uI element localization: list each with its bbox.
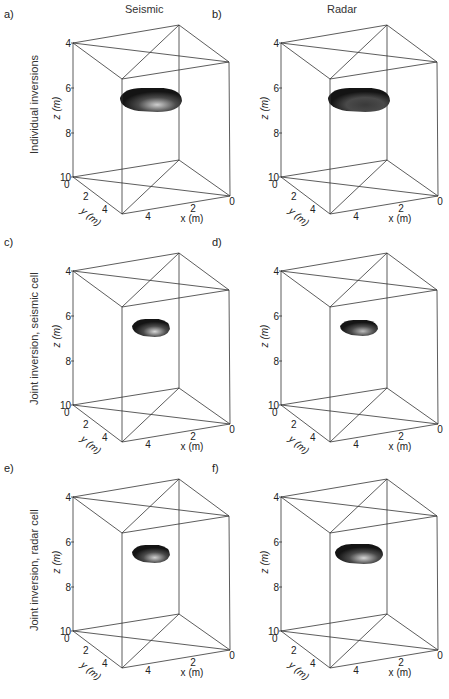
panel-c: c)46810z (m)024y (m)420x (m) [0, 228, 240, 463]
box-edge [330, 290, 437, 307]
box-edge [330, 516, 437, 533]
tick-label: 0 [272, 407, 278, 418]
panel-label: f) [212, 462, 219, 474]
tick-label: 0 [272, 633, 278, 644]
box-edge [73, 271, 229, 290]
tick-label: 4 [310, 432, 316, 443]
x-axis-label: x (m) [389, 667, 412, 678]
box-edge [73, 177, 122, 214]
tick-label: 4 [65, 492, 71, 503]
tick-label: 2 [291, 419, 297, 430]
tick-label: 4 [310, 204, 316, 215]
panel-label: a) [4, 8, 14, 20]
tick-label: 0 [437, 424, 443, 435]
tick-label: 0 [437, 650, 443, 661]
x-axis-label: x (m) [389, 441, 412, 452]
z-axis-label: z (m) [51, 97, 62, 121]
tick-label: 4 [310, 658, 316, 669]
panel-label: e) [4, 462, 14, 474]
tick-label: 8 [273, 582, 279, 593]
tick-label: 0 [64, 407, 70, 418]
tick-label: 2 [291, 645, 297, 656]
tick-label: 6 [65, 83, 71, 94]
tick-label: 8 [273, 356, 279, 367]
x-axis-label: x (m) [181, 441, 204, 452]
z-axis-label: z (m) [259, 97, 270, 121]
z-axis-label: z (m) [51, 325, 62, 349]
tick-label: 4 [102, 658, 108, 669]
tick-label: 8 [65, 128, 71, 139]
tick-label: 8 [65, 582, 71, 593]
tick-label: 4 [145, 439, 151, 450]
box-edge [281, 271, 437, 290]
tick-label: 0 [437, 196, 443, 207]
x-axis-label: x (m) [181, 667, 204, 678]
box-edge [281, 405, 330, 442]
isosurface-anomaly [340, 320, 378, 336]
tick-label: 4 [273, 38, 279, 49]
box-edge [73, 160, 179, 177]
box-edge [281, 497, 437, 516]
panel-f: f)46810z (m)024y (m)420x (m) [208, 454, 448, 689]
tick-label: 4 [65, 266, 71, 277]
panel-label: b) [212, 8, 222, 20]
tick-label: 4 [102, 204, 108, 215]
y-axis-label: y (m) [286, 204, 311, 228]
tick-label: 0 [64, 633, 70, 644]
x-axis-label: x (m) [181, 213, 204, 224]
isosurface-anomaly [335, 544, 383, 564]
tick-label: 6 [65, 311, 71, 322]
panel-d: d)46810z (m)024y (m)420x (m) [208, 228, 448, 463]
x-axis-label: x (m) [389, 213, 412, 224]
y-axis-label: y (m) [78, 658, 103, 682]
box-edge [281, 388, 387, 405]
box-edge [437, 290, 438, 424]
y-axis-label: y (m) [286, 658, 311, 682]
z-axis-label: z (m) [259, 325, 270, 349]
tick-label: 4 [102, 432, 108, 443]
box-edge [73, 497, 229, 516]
tick-label: 2 [83, 645, 89, 656]
box-edge [437, 516, 438, 650]
tick-label: 6 [65, 537, 71, 548]
tick-label: 8 [65, 356, 71, 367]
tick-label: 4 [145, 665, 151, 676]
isosurface-anomaly [120, 88, 182, 112]
tick-label: 4 [65, 38, 71, 49]
tick-label: 2 [291, 191, 297, 202]
tick-label: 4 [145, 211, 151, 222]
tick-label: 6 [273, 311, 279, 322]
tick-label: 8 [273, 128, 279, 139]
box-edge [73, 388, 179, 405]
box-edge [73, 614, 179, 631]
tick-label: 6 [273, 537, 279, 548]
isosurface-anomaly [132, 319, 170, 337]
tick-label: 2 [83, 191, 89, 202]
tick-label: 4 [353, 439, 359, 450]
isosurface-anomaly [328, 88, 390, 112]
y-axis-label: y (m) [78, 432, 103, 456]
tick-label: 0 [272, 179, 278, 190]
z-axis-label: z (m) [51, 551, 62, 575]
box-edge [73, 631, 122, 668]
tick-label: 6 [273, 83, 279, 94]
panel-b: b)46810z (m)024y (m)420x (m) [208, 0, 448, 235]
tick-label: 4 [353, 665, 359, 676]
box-edge [73, 405, 122, 442]
panel-e: e)46810z (m)024y (m)420x (m) [0, 454, 240, 689]
box-edge [437, 62, 438, 196]
tick-label: 0 [64, 179, 70, 190]
box-edge [73, 43, 229, 62]
isosurface-anomaly [132, 545, 170, 563]
tick-label: 4 [273, 266, 279, 277]
box-edge [281, 614, 387, 631]
box-edge [281, 631, 330, 668]
panel-label: c) [4, 236, 13, 248]
box-edge [281, 177, 330, 214]
tick-label: 4 [353, 211, 359, 222]
tick-label: 4 [273, 492, 279, 503]
panel-a: a)46810z (m)024y (m)420x (m) [0, 0, 240, 235]
y-axis-label: y (m) [78, 204, 103, 228]
tick-label: 2 [83, 419, 89, 430]
panel-label: d) [212, 236, 222, 248]
